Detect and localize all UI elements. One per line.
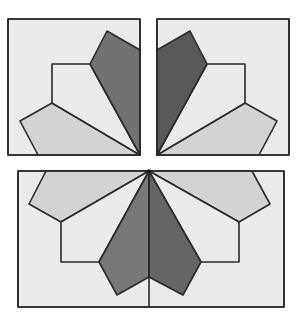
quilt-diagram — [0, 0, 299, 319]
top-left-square-block — [8, 19, 140, 155]
top-right-square-block — [157, 19, 289, 155]
apex-point — [147, 169, 151, 173]
bottom-rectangle-block — [18, 169, 284, 307]
